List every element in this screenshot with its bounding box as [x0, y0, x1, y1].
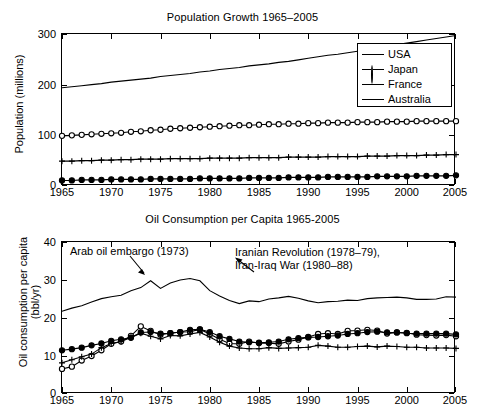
plot-area-population: 300 200 100 0 1965 1970 [61, 33, 455, 185]
legend-item-usa[interactable]: USA [358, 47, 451, 62]
y-ticklabel-200: 200 [12, 80, 56, 91]
x-ticklabel-1975: 1975 [139, 187, 183, 198]
chart-title-oil: Oil Consumption per Capita 1965-2005 [0, 213, 485, 225]
legend-sample-france [358, 77, 388, 92]
x-ticklabel-1995: 1995 [336, 187, 380, 198]
y-ticklabel-300: 300 [12, 29, 56, 40]
x-ticklabel-1970: 1970 [89, 187, 133, 198]
x-ticklabel-1980: 1980 [188, 395, 232, 406]
legend-item-japan[interactable]: Japan [358, 62, 451, 77]
annotation-iran-line2: Iran-Iraq War (1980–88) [235, 259, 380, 272]
x-ticklabel-1990: 1990 [286, 395, 330, 406]
figure-two-panel-line-charts: Population Growth 1965–2005 Population (… [0, 0, 485, 417]
annotation-arab-oil-embargo: Arab oil embargo (1973) [70, 245, 189, 258]
arrow-arab-oil-embargo [130, 256, 145, 275]
annotation-iranian-revolution: Iranian Revolution (1978–79), Iran-Iraq … [235, 246, 380, 272]
legend-sample-japan [358, 62, 388, 77]
legend-label-usa: USA [388, 49, 411, 60]
series-markers-france [59, 152, 459, 165]
x-ticklabel-1980: 1980 [188, 187, 232, 198]
figure-caption-cutoff [40, 406, 445, 415]
legend-sample-usa [358, 47, 388, 62]
chart-title-population: Population Growth 1965–2005 [0, 11, 485, 23]
series-markers-japan [59, 119, 458, 139]
x-ticklabel-1975: 1975 [139, 395, 183, 406]
panel-population-growth: Population Growth 1965–2005 Population (… [0, 0, 485, 208]
legend-label-japan: Japan [388, 64, 418, 75]
x-ticklabel-1985: 1985 [237, 187, 281, 198]
legend-item-france[interactable]: France [358, 77, 451, 92]
x-ticklabel-2000: 2000 [385, 187, 429, 198]
y-axis-label-oil-line1: Oil consumption per capita [17, 237, 29, 367]
legend-label-france: France [388, 79, 422, 90]
series-markers-australia [59, 173, 458, 183]
legend-label-australia: Australia [388, 94, 431, 105]
panel-oil-consumption: Oil Consumption per Capita 1965-2005 Oil… [0, 208, 485, 417]
y-ticklabel-40: 40 [12, 237, 56, 248]
y-ticklabel-10: 10 [12, 351, 56, 362]
x-ticklabel-2000: 2000 [385, 395, 429, 406]
x-ticklabel-1995: 1995 [336, 395, 380, 406]
y-ticklabel-20: 20 [12, 313, 56, 324]
y-axis-label-population: Population (millions) [13, 29, 25, 179]
y-ticklabel-100: 100 [12, 130, 56, 141]
x-ticklabel-1990: 1990 [286, 187, 330, 198]
x-ticklabel-2005: 2005 [433, 187, 477, 198]
x-ticklabel-1965: 1965 [40, 187, 84, 198]
x-ticklabel-1970: 1970 [89, 395, 133, 406]
legend-item-australia[interactable]: Australia [358, 92, 451, 107]
y-ticklabel-30: 30 [12, 275, 56, 286]
annotation-iran-line1: Iranian Revolution (1978–79), [235, 246, 380, 258]
x-ticklabel-1985: 1985 [237, 395, 281, 406]
legend-sample-australia [358, 92, 388, 107]
x-ticklabel-2005: 2005 [433, 395, 477, 406]
legend-population[interactable]: USA Japan France Australia [357, 43, 452, 107]
x-ticklabel-1965: 1965 [40, 395, 84, 406]
